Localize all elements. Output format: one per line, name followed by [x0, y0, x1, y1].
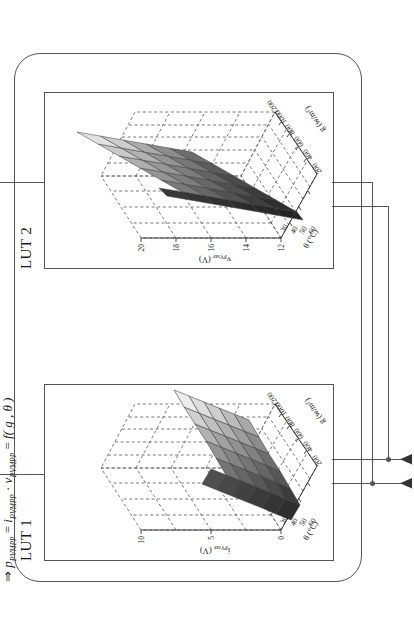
lut1-surface-chart: 200 400 600 800 1000 1200 g (w/m²) 30 40… — [45, 385, 333, 560]
lut2-panel[interactable]: 200 400 600 800 1000 1200 g (w/m²) 30 40… — [44, 92, 334, 269]
lut2-z-axis-label: vPVMP (V) — [199, 254, 231, 265]
svg-text:600: 600 — [292, 134, 306, 149]
lut1-z-axis-label: iPVMP (V) — [200, 545, 230, 556]
junction-dot-2 — [386, 457, 391, 462]
svg-text:10: 10 — [137, 536, 146, 544]
lut2-x-axis-label: g (w/m²) — [302, 104, 327, 134]
svg-text:400: 400 — [301, 147, 315, 162]
input-branch-2-vertical — [332, 206, 389, 207]
equation-lhs: p — [0, 561, 15, 568]
svg-text:20: 20 — [137, 244, 146, 252]
svg-text:1200: 1200 — [265, 390, 281, 408]
svg-text:12: 12 — [277, 244, 286, 252]
equation-term-voltage: v — [0, 478, 15, 484]
equation-term-current: i — [0, 519, 15, 523]
input-trunk-2 — [332, 459, 408, 460]
equation-function-args: ( g , θ ) — [0, 398, 15, 436]
multiplication-dot: · — [0, 487, 15, 491]
equation-function-f: f — [0, 435, 15, 439]
junction-dot-1 — [370, 481, 375, 486]
lut1-panel[interactable]: 200 400 600 800 1000 1200 g (w/m²) 30 40… — [44, 384, 334, 561]
svg-text:200: 200 — [310, 453, 324, 468]
input-arrowhead-2 — [400, 452, 414, 466]
svg-text:16: 16 — [207, 244, 216, 252]
svg-text:18: 18 — [172, 244, 181, 252]
svg-text:0: 0 — [277, 536, 286, 540]
svg-text:5: 5 — [207, 536, 216, 540]
svg-text:400: 400 — [301, 439, 315, 454]
lut2-title: LUT 2 — [18, 227, 35, 269]
lut1-output-wire — [0, 474, 44, 475]
svg-text:14: 14 — [242, 244, 251, 252]
lut1-x-axis-label: g (w/m²) — [302, 396, 327, 426]
input-branch-1-vertical — [332, 182, 373, 183]
lut2-output-wire — [0, 182, 44, 183]
input-branch-2-horizontal — [388, 206, 389, 460]
implies-icon: ⇒ — [0, 571, 15, 582]
svg-text:600: 600 — [292, 426, 306, 441]
equals-sign-1: = — [0, 526, 15, 533]
svg-text:200: 200 — [310, 161, 324, 176]
lut2-surface-chart: 200 400 600 800 1000 1200 g (w/m²) 30 40… — [45, 93, 333, 268]
input-arrowhead-1 — [400, 476, 414, 490]
equals-sign-2: = — [0, 442, 15, 449]
lut1-title: LUT 1 — [18, 519, 35, 561]
input-branch-1-horizontal — [372, 182, 373, 484]
svg-text:1200: 1200 — [265, 98, 281, 116]
